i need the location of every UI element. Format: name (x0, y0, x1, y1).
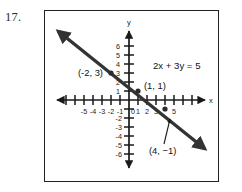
y-tick-label-pos6: 6 (116, 42, 120, 51)
callout-leader-line-4-neg1 (164, 119, 170, 144)
equation-label: 2x + 3y = 5 (153, 60, 200, 71)
x-tick-label-neg2: -2 (108, 107, 114, 116)
point-marker-neg2-3 (108, 70, 113, 75)
x-axis-name-label: x (209, 96, 213, 105)
coordinate-graph: -5 -4 -3 -2 -1 0 1 2 3 5 6 5 4 3 2 1 -2 … (45, 11, 217, 180)
figure-root: 17. (0, 0, 242, 192)
graph-line-2x-3y-5 (58, 31, 205, 149)
y-tick-label-neg3: -3 (116, 123, 122, 132)
y-axis-name-label: y (127, 18, 131, 27)
origin-label: 0 (131, 107, 135, 116)
point-marker-1-1 (135, 88, 140, 93)
y-tick-label-pos1: 1 (116, 87, 120, 96)
y-tick-label-pos5: 5 (116, 51, 120, 60)
x-tick-label-neg3: -3 (99, 107, 105, 116)
x-tick-label-neg5: -5 (81, 107, 87, 116)
y-tick-label-neg6: -6 (116, 150, 122, 159)
y-tick-label-neg4: -4 (116, 132, 122, 141)
y-tick-label-pos4: 4 (116, 60, 120, 69)
point-marker-4-neg1 (162, 106, 167, 111)
x-tick-label-pos2: 2 (145, 107, 149, 116)
figure-border-box: -5 -4 -3 -2 -1 0 1 2 3 5 6 5 4 3 2 1 -2 … (44, 10, 219, 182)
x-tick-label-pos1: 1 (136, 107, 140, 116)
x-tick-label-neg4: -4 (90, 107, 96, 116)
point-label-1-1: (1, 1) (144, 80, 166, 91)
y-tick-label-neg2: -2 (116, 114, 122, 123)
y-tick-label-neg5: -5 (116, 141, 122, 150)
problem-number-label: 17. (5, 10, 22, 25)
x-tick-label-pos5: 5 (172, 107, 176, 116)
point-label-4-neg1: (4, −1) (149, 145, 176, 156)
point-label-neg2-3: (-2, 3) (78, 67, 103, 78)
